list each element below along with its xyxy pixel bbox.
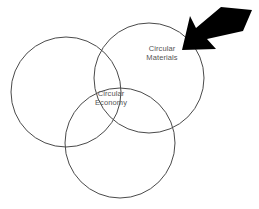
pointer-arrow-icon (182, 7, 252, 50)
venn-diagram-svg (0, 0, 259, 209)
venn-diagram-canvas: Circular Materials Circular Economy (0, 0, 259, 209)
